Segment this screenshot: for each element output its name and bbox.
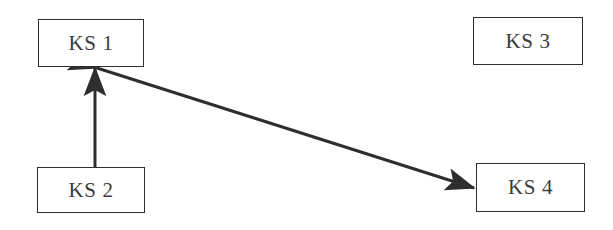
node-ks1[interactable]: KS 1 bbox=[38, 19, 144, 67]
node-ks4-label: KS 4 bbox=[508, 177, 553, 198]
node-ks2-label: KS 2 bbox=[69, 180, 114, 201]
node-ks4[interactable]: KS 4 bbox=[476, 163, 585, 212]
diagram-canvas: KS 1 KS 3 KS 2 KS 4 bbox=[0, 0, 613, 230]
node-ks1-label: KS 1 bbox=[69, 33, 114, 54]
edge-ks1-ks4-bidirectional bbox=[97, 68, 474, 188]
node-ks2[interactable]: KS 2 bbox=[37, 167, 145, 213]
node-ks3[interactable]: KS 3 bbox=[473, 17, 583, 65]
node-ks3-label: KS 3 bbox=[506, 31, 551, 52]
